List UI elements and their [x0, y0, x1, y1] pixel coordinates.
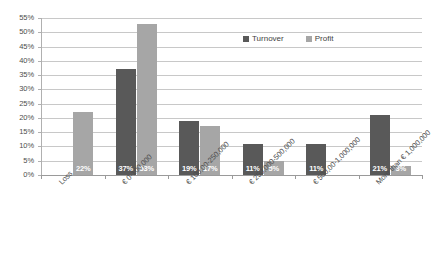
bar-turnover: 37% — [116, 69, 136, 175]
x-tick-mark — [422, 175, 423, 179]
plot-area: 22%37%53%19%17%11%5%11%21%3% — [41, 18, 422, 175]
x-tick-mark — [359, 175, 360, 179]
legend-swatch-turnover — [243, 36, 249, 42]
x-tick-mark — [105, 175, 106, 179]
x-tick-mark — [41, 175, 42, 179]
legend-item-profit: Profit — [306, 34, 334, 43]
bar-profit: 22% — [73, 112, 93, 175]
y-tick-label: 50% — [0, 28, 34, 36]
y-tick-label: 30% — [0, 85, 34, 93]
y-tick-label: 25% — [0, 100, 34, 108]
y-tick-label: 15% — [0, 128, 34, 136]
y-tick-label: 20% — [0, 114, 34, 122]
x-tick-mark — [168, 175, 169, 179]
y-tick-label: 35% — [0, 71, 34, 79]
y-tick-label: 5% — [0, 157, 34, 165]
chart-legend: Turnover Profit — [243, 34, 333, 43]
y-tick-label: 40% — [0, 57, 34, 65]
legend-item-turnover: Turnover — [243, 34, 284, 43]
x-tick-mark — [295, 175, 296, 179]
x-tick-mark — [232, 175, 233, 179]
legend-label-turnover: Turnover — [252, 34, 284, 43]
legend-label-profit: Profit — [315, 34, 334, 43]
bar-value-label: 22% — [73, 164, 93, 173]
y-tick-label: 10% — [0, 142, 34, 150]
y-tick-label: 45% — [0, 43, 34, 51]
bar-chart: 55%50%45%40%35%30%25%20%15%10%5%0% 22%37… — [0, 0, 437, 263]
y-tick-label: 55% — [0, 14, 34, 22]
y-tick-label: 0% — [0, 171, 34, 179]
legend-swatch-profit — [306, 36, 312, 42]
